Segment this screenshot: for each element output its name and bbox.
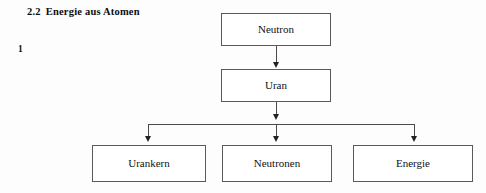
node-label: Urankern: [128, 158, 170, 169]
figure-number: 1: [18, 44, 23, 54]
node-label: Uran: [265, 80, 287, 91]
flowchart-node-neutron: Neutron: [221, 13, 331, 46]
node-label: Neutron: [258, 24, 294, 35]
arrowhead-neutron-to-uran-icon: [273, 62, 279, 68]
document-page: 2.2Energie aus Atomen 1 Neutron Uran Ura…: [0, 0, 486, 193]
arrowhead-to-urankern-icon: [145, 136, 151, 142]
node-label: Neutronen: [254, 158, 300, 169]
node-label: Energie: [396, 158, 430, 169]
arrowhead-to-energie-icon: [411, 136, 417, 142]
arrowhead-to-neutronen-icon: [273, 136, 279, 142]
flowchart-node-uran: Uran: [221, 69, 331, 102]
flowchart-node-energie: Energie: [353, 145, 473, 182]
arrowhead-uran-to-split-icon: [273, 114, 279, 120]
connector-neutron-to-uran: [276, 46, 277, 63]
section-heading: 2.2Energie aus Atomen: [27, 6, 140, 17]
flowchart-node-neutronen: Neutronen: [222, 145, 332, 182]
section-number: 2.2: [27, 6, 41, 17]
flowchart-node-urankern: Urankern: [92, 145, 206, 182]
section-title: Energie aus Atomen: [46, 6, 140, 17]
connector-split-bar: [148, 124, 415, 125]
